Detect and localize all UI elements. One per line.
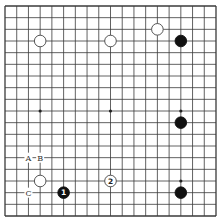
go-board: 12 ABC bbox=[0, 0, 222, 222]
black-stone bbox=[175, 187, 187, 199]
star-point bbox=[179, 179, 182, 182]
black-stone bbox=[175, 35, 187, 47]
white-stone: 2 bbox=[105, 175, 117, 187]
white-stone bbox=[34, 35, 46, 47]
star-point bbox=[109, 109, 112, 112]
point-marker-c: C bbox=[25, 189, 31, 198]
black-stone: 1 bbox=[58, 187, 70, 199]
white-stone bbox=[105, 35, 117, 47]
black-stone bbox=[175, 117, 187, 129]
star-point bbox=[39, 109, 42, 112]
star-point bbox=[179, 109, 182, 112]
move-number: 2 bbox=[108, 177, 113, 186]
point-marker-a: A bbox=[25, 154, 32, 163]
white-stone bbox=[152, 24, 164, 36]
point-marker-b: B bbox=[37, 154, 43, 163]
white-stone bbox=[34, 175, 46, 187]
move-number: 1 bbox=[61, 188, 66, 197]
